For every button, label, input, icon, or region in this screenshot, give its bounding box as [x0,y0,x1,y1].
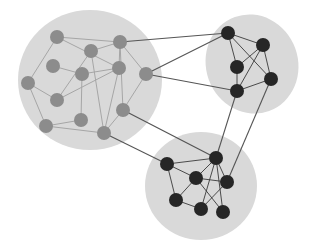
node-T [209,151,223,165]
node-J [116,103,130,117]
node-X [194,202,208,216]
node-F [112,61,126,75]
node-U [189,171,203,185]
node-L [74,113,88,127]
node-C [84,44,98,58]
node-R [230,84,244,98]
node-N [221,26,235,40]
node-E [75,67,89,81]
network-graph-svg [0,0,313,244]
node-A [50,30,64,44]
node-S [160,157,174,171]
network-diagram [0,0,313,244]
node-I [50,93,64,107]
node-W [169,193,183,207]
node-Q [264,72,278,86]
node-G [139,67,153,81]
node-B [113,35,127,49]
edge-M-S [104,133,167,164]
node-Y [216,205,230,219]
cluster-left [18,10,162,150]
cluster-bottom [145,132,257,240]
node-D [46,59,60,73]
node-H [21,76,35,90]
node-O [256,38,270,52]
node-P [230,60,244,74]
node-M [97,126,111,140]
node-V [220,175,234,189]
node-K [39,119,53,133]
